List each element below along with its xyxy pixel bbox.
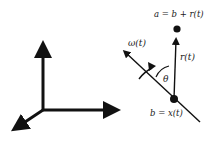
point-a-dot — [173, 25, 180, 32]
r-vector-arrow — [174, 40, 176, 99]
rotation-direction — [139, 62, 156, 79]
coordinate-frame — [16, 46, 115, 128]
r-vector: r(t) — [174, 40, 195, 99]
diagram-canvas: ω(t) θ r(t) a = b + r(t) b = x(t) — [0, 0, 217, 141]
theta-label: θ — [163, 74, 169, 84]
point-b: b = x(t) — [150, 95, 183, 118]
point-b-dot — [170, 95, 178, 103]
angle-theta: θ — [156, 66, 169, 84]
omega-label: ω(t) — [128, 38, 146, 48]
point-a-label: a = b + r(t) — [154, 9, 204, 19]
r-vector-label: r(t) — [180, 52, 195, 62]
point-a: a = b + r(t) — [154, 9, 204, 33]
point-b-label: b = x(t) — [150, 108, 183, 118]
depth-axis-arrow — [16, 110, 43, 128]
